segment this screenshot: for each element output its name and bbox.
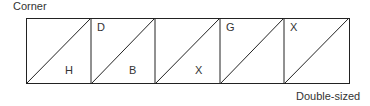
double-sized-label: Double-sized xyxy=(296,90,360,102)
cell-4-top-letter: G xyxy=(226,21,235,33)
cell-2-bottom-letter: B xyxy=(129,64,136,76)
cell-3-bottom-letter: X xyxy=(195,64,202,76)
cell-5-top-letter: X xyxy=(290,21,297,33)
cell-1-bottom-letter: H xyxy=(65,64,73,76)
diagonal xyxy=(155,18,220,84)
cell-2-top-letter: D xyxy=(97,21,105,33)
diagonal xyxy=(26,18,91,84)
